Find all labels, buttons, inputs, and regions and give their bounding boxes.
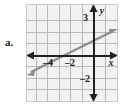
y-tick-label-3: 3 [83, 12, 88, 23]
coordinate-plane-svg: –4 –2 3 –2 x y [26, 4, 118, 102]
x-tick-label-neg4: –4 [42, 57, 53, 68]
figure-item-label: a. [5, 37, 13, 48]
y-tick-label-neg2: –2 [79, 73, 90, 84]
plot-background [26, 4, 118, 102]
graph-figure: a. [0, 0, 123, 107]
x-tick-label-neg2: –2 [64, 57, 75, 68]
coordinate-plane: –4 –2 3 –2 x y [26, 4, 118, 102]
y-axis-label: y [99, 5, 105, 16]
x-axis-label: x [108, 57, 114, 68]
